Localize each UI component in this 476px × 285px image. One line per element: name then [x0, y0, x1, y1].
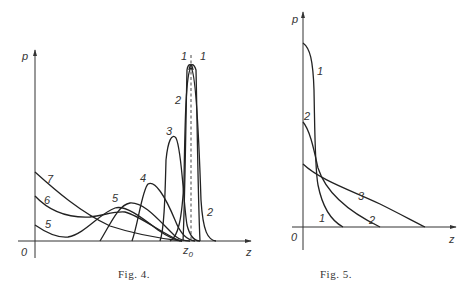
- fig4-curve-label-3: 3: [166, 125, 173, 137]
- fig5-curve-label-3: 3: [358, 190, 365, 202]
- fig4-x-label: z: [245, 246, 252, 258]
- fig4-origin-label: 0: [21, 246, 28, 258]
- fig5-curve-label-2-bottom: 2: [368, 214, 375, 226]
- fig4-curve-label-6: 6: [44, 194, 51, 206]
- fig4-curve-3: [160, 136, 200, 241]
- fig4-curve-label-2: 2: [174, 94, 181, 106]
- fig4-curve-label-1-left: 1: [181, 50, 187, 62]
- fig5-curve-label-1-bottom: 1: [319, 212, 325, 224]
- fig4-curve-label-5-peak: 5: [112, 192, 119, 204]
- figure-4: p z 0 z0 1 1 2 3 4 5 5 6 7 2 Fig. 4.: [18, 50, 252, 280]
- figure-5: p z 0 1 2 3 1 2 Fig. 5.: [291, 12, 456, 280]
- fig4-curve-5a: [35, 208, 182, 241]
- fig5-curve-label-1-top: 1: [317, 65, 323, 77]
- fig4-caption: Fig. 4.: [118, 268, 150, 280]
- fig4-curve-label-7: 7: [47, 173, 54, 185]
- figure-canvas: p z 0 z0 1 1 2 3 4 5 5 6 7 2 Fig. 4. p z…: [0, 0, 476, 285]
- fig4-z0-label: z0: [182, 244, 194, 259]
- fig4-y-label: p: [21, 50, 28, 62]
- fig4-curve-label-2-right: 2: [206, 206, 213, 218]
- fig5-curve-label-2-top: 2: [303, 110, 310, 122]
- fig4-curve-label-4: 4: [140, 172, 146, 184]
- fig5-x-label: z: [448, 233, 455, 245]
- fig4-curve-label-1-right: 1: [200, 50, 206, 62]
- fig5-y-label: p: [291, 13, 298, 25]
- fig5-origin-label: 0: [291, 231, 298, 243]
- fig4-curve-label-5-left: 5: [45, 218, 52, 230]
- fig5-caption: Fig. 5.: [320, 268, 352, 280]
